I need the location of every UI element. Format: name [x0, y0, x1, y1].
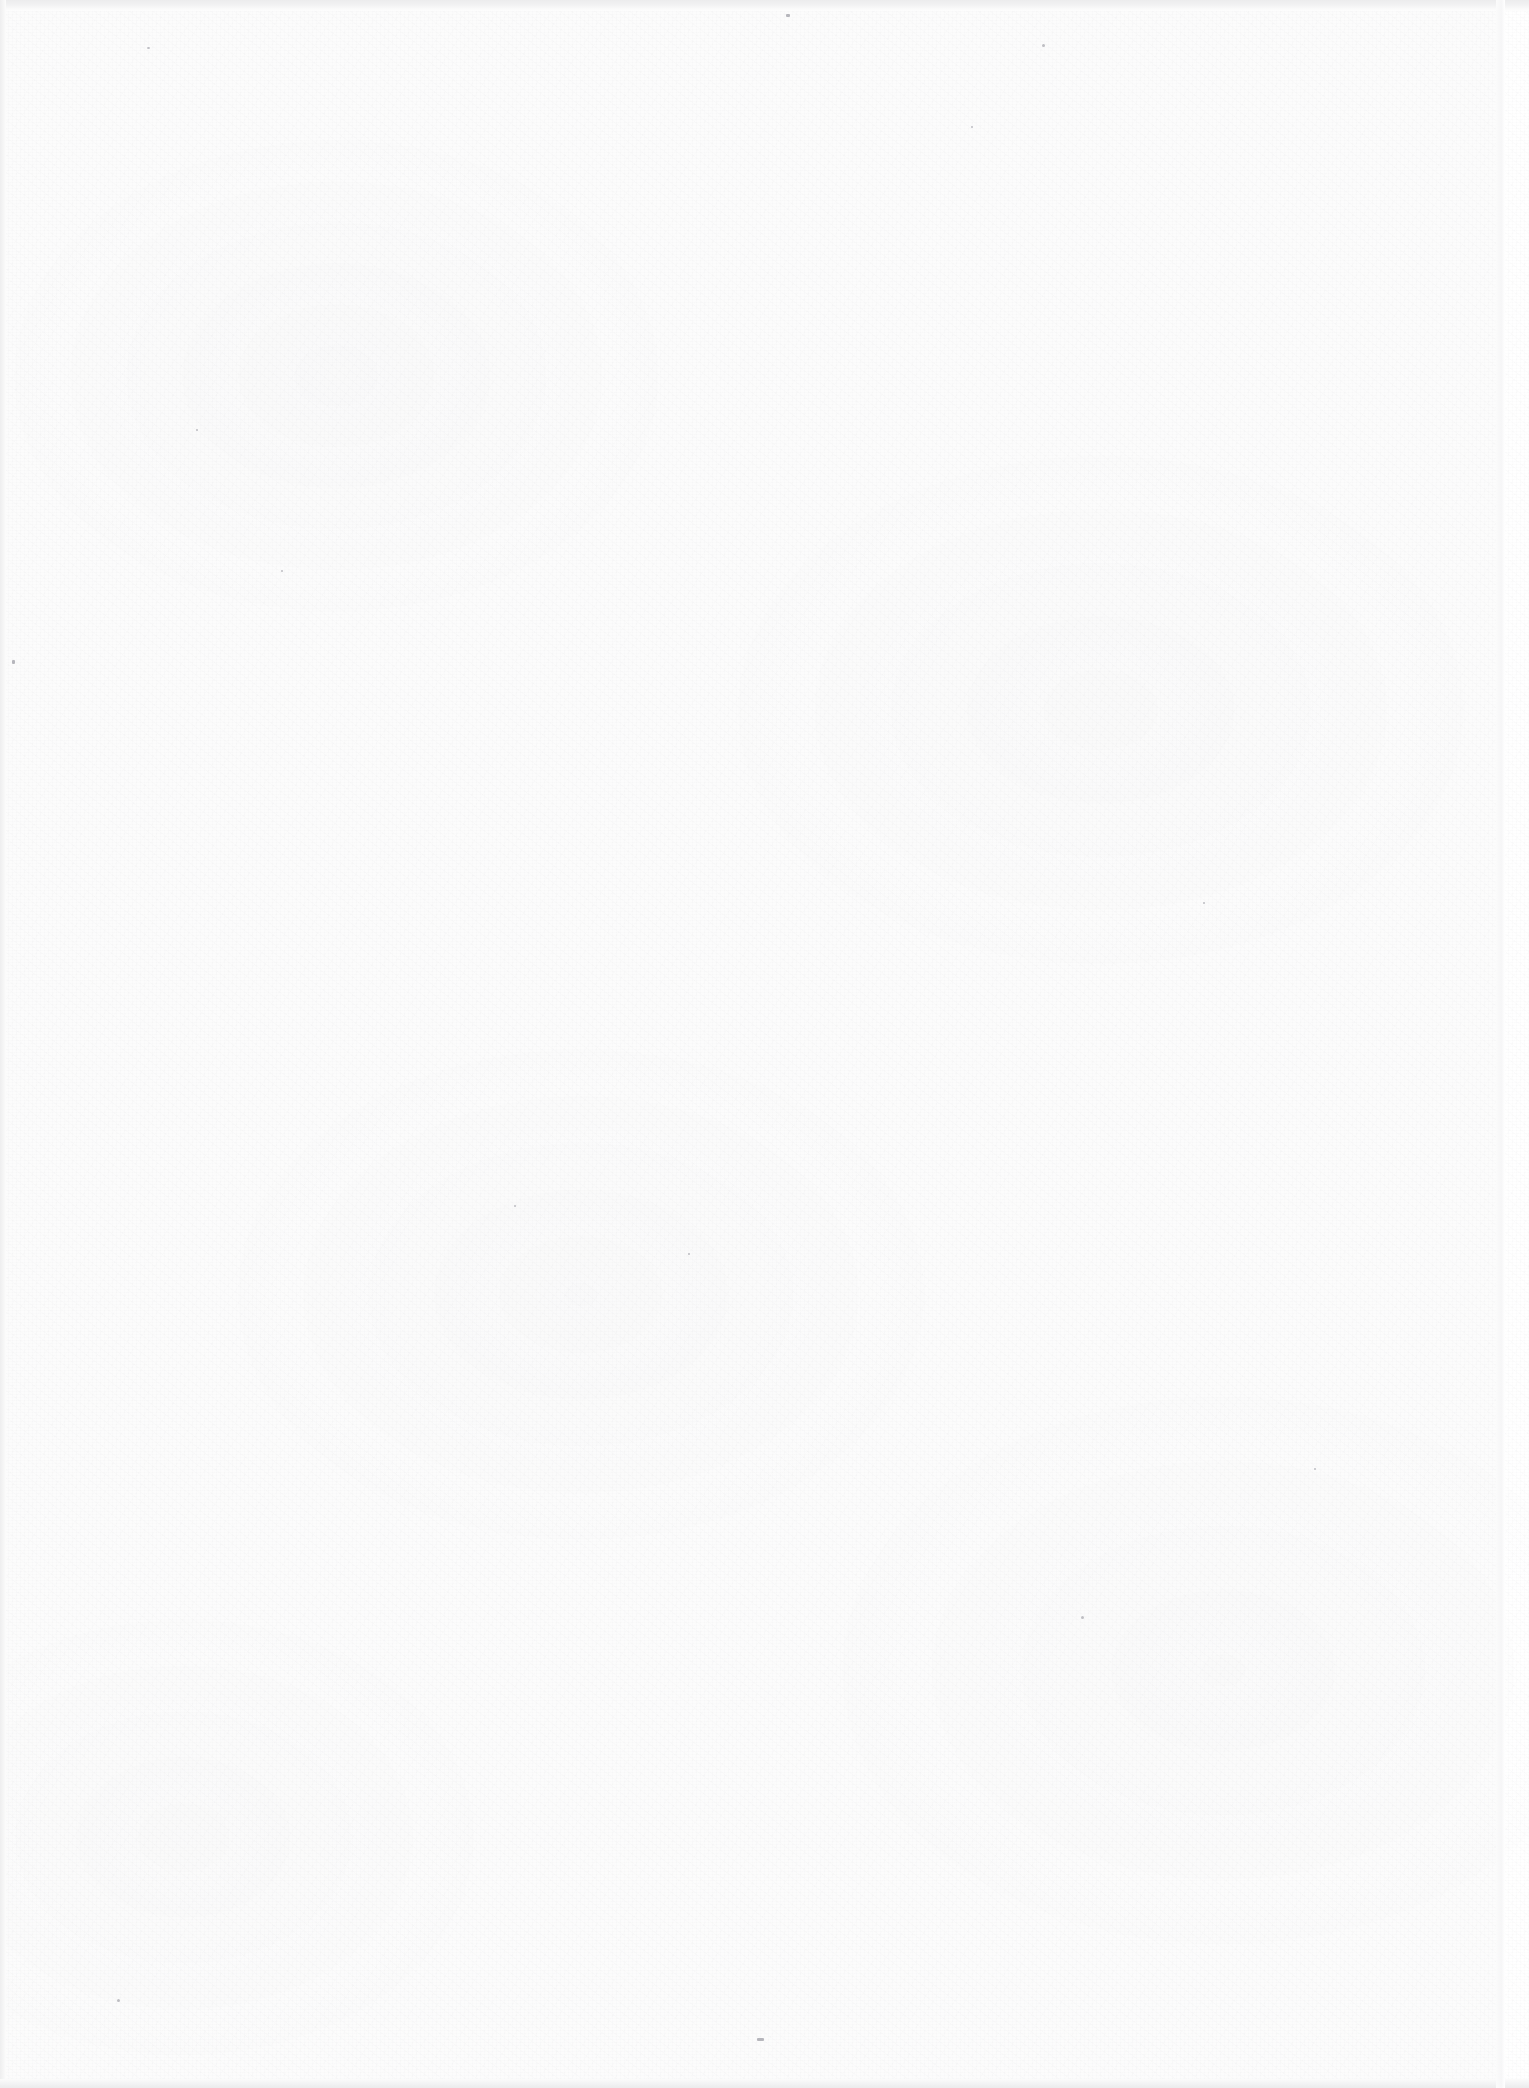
- document-page: [0, 0, 1529, 2088]
- scan-edge-bottom: [0, 2079, 1529, 2088]
- scan-edge-left: [0, 0, 6, 2088]
- scan-edge-top: [0, 0, 1529, 11]
- scan-edge-right: [1496, 0, 1505, 2088]
- outer-right-margin: [1504, 0, 1529, 2088]
- page-content-area: [90, 120, 1430, 1960]
